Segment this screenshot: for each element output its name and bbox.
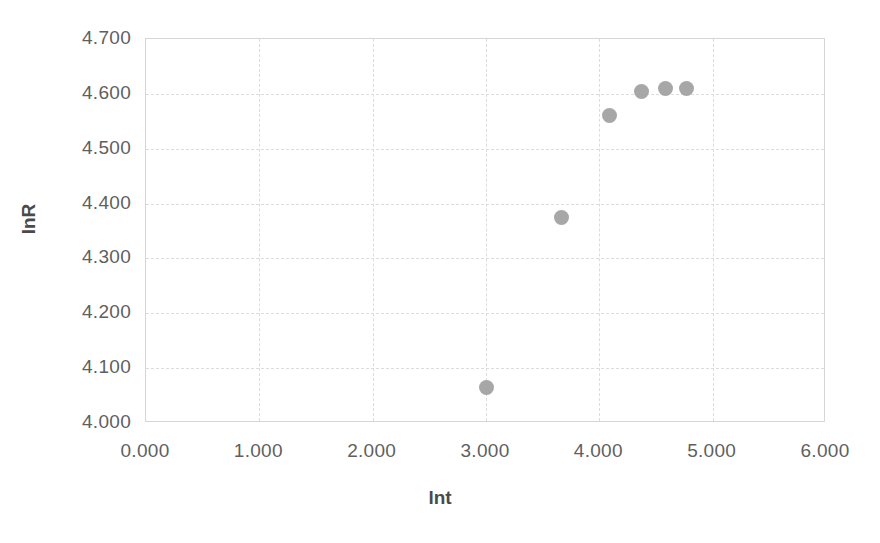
plot-area	[145, 38, 825, 422]
gridline-horizontal	[146, 149, 824, 150]
gridline-vertical	[599, 39, 600, 421]
x-tick-label: 1.000	[198, 440, 318, 462]
y-tick-label: 4.200	[11, 301, 131, 323]
data-point	[634, 84, 649, 99]
y-tick-label: 4.500	[11, 137, 131, 159]
gridline-horizontal	[146, 94, 824, 95]
data-point	[479, 380, 494, 395]
y-tick-label: 4.700	[11, 27, 131, 49]
x-axis-title: lnt	[0, 487, 880, 509]
x-tick-label: 6.000	[765, 440, 880, 462]
y-tick-label: 4.100	[11, 356, 131, 378]
data-point	[602, 108, 617, 123]
data-point	[554, 210, 569, 225]
y-tick-label: 4.300	[11, 246, 131, 268]
gridline-horizontal	[146, 368, 824, 369]
data-point	[679, 81, 694, 96]
gridline-vertical	[713, 39, 714, 421]
x-tick-label: 2.000	[312, 440, 432, 462]
data-point	[658, 81, 673, 96]
x-tick-label: 0.000	[85, 440, 205, 462]
x-axis-tick-labels: 0.0001.0002.0003.0004.0005.0006.000	[145, 440, 825, 470]
gridline-horizontal	[146, 204, 824, 205]
gridline-horizontal	[146, 258, 824, 259]
gridline-vertical	[259, 39, 260, 421]
scatter-chart: lnR 4.0004.1004.2004.3004.4004.5004.6004…	[0, 0, 880, 543]
y-tick-label: 4.400	[11, 192, 131, 214]
gridline-vertical	[486, 39, 487, 421]
gridline-horizontal	[146, 313, 824, 314]
x-tick-label: 5.000	[652, 440, 772, 462]
x-tick-label: 4.000	[538, 440, 658, 462]
y-tick-label: 4.600	[11, 82, 131, 104]
x-tick-label: 3.000	[425, 440, 545, 462]
gridline-vertical	[373, 39, 374, 421]
y-tick-label: 4.000	[11, 411, 131, 433]
